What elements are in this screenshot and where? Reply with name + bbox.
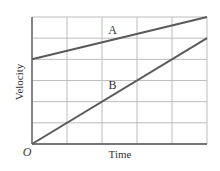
grid — [32, 17, 207, 144]
x-axis-label: Time — [109, 148, 132, 160]
y-axis-label: Velocity — [13, 63, 25, 100]
series-line-b — [32, 38, 207, 144]
series-label-b: B — [108, 78, 116, 92]
series-label-a: A — [108, 23, 117, 37]
velocity-time-chart: A B O Time Velocity — [0, 0, 220, 171]
origin-label: O — [23, 145, 32, 159]
